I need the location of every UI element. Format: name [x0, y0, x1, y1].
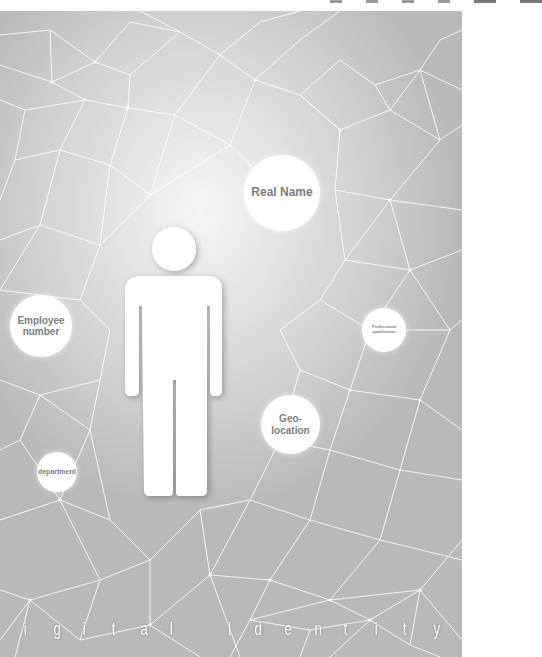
title-letter: n: [315, 618, 322, 640]
bubble-professional-qualification-line2: qualification: [372, 330, 396, 335]
bubble-professional-qualification: Professional qualification: [362, 308, 406, 352]
bubble-employee-number: Employee number: [10, 295, 72, 357]
bubble-department-label: department: [38, 468, 76, 476]
title-letter: t: [344, 618, 348, 640]
bubble-geo-location-line1: Geo-: [279, 413, 302, 425]
title-letter: t: [403, 618, 407, 640]
digital-identity-title: i g i t a l I d e n t i t y: [0, 618, 462, 648]
bubble-employee-number-line1: Employee: [17, 315, 64, 327]
bubble-employee-number-line2: number: [23, 326, 60, 338]
title-letter: i: [375, 618, 378, 640]
title-letter: i: [24, 618, 27, 640]
title-letter: a: [141, 618, 148, 640]
bubble-real-name: Real Name: [244, 155, 320, 231]
title-letter: i: [83, 618, 86, 640]
title-letter: t: [112, 618, 116, 640]
cropped-heading-glyphs: [330, 0, 542, 4]
top-margin-strip: [0, 0, 474, 11]
bubble-geo-location: Geo- location: [261, 395, 320, 454]
title-letter: g: [54, 618, 61, 640]
digital-identity-poster: Real Name Employee number Professional q…: [0, 11, 462, 657]
bubble-geo-location-line2: location: [271, 425, 309, 437]
title-letter: I: [228, 618, 232, 640]
title-letter: e: [285, 618, 292, 640]
bubble-real-name-label: Real Name: [251, 186, 312, 200]
title-letter: y: [433, 618, 440, 640]
right-margin-strip: [462, 0, 474, 657]
title-letter: d: [255, 618, 262, 640]
title-letter: l: [170, 618, 173, 640]
bubble-department: department: [37, 452, 77, 492]
